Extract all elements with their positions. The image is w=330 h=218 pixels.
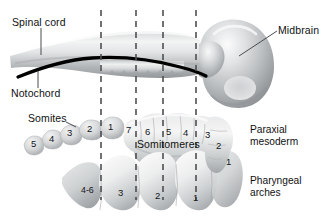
somitomere-number-1: 1 bbox=[226, 157, 231, 167]
pharyngeal-arch-number-3: 3 bbox=[118, 188, 123, 198]
somite-number-2: 2 bbox=[87, 124, 92, 134]
somitomere-number-2: 2 bbox=[216, 141, 221, 151]
somite-number-5: 5 bbox=[31, 139, 36, 149]
pharyngeal-arch-3 bbox=[99, 155, 141, 210]
embryo-diagram-figure: Spinal cord Notochord Midbrain Somites S… bbox=[0, 0, 330, 218]
pharyngeal-arch-2 bbox=[137, 152, 179, 210]
midbrain-group bbox=[199, 19, 274, 108]
pharyngeal-arches-label-line1: Pharyngeal bbox=[250, 175, 302, 187]
pharyngeal-arch-number-2: 2 bbox=[155, 191, 160, 201]
somitomere-number-5: 5 bbox=[166, 127, 171, 137]
somitomere-number-7: 7 bbox=[126, 125, 131, 135]
pharyngeal-arch-number-1: 1 bbox=[193, 193, 198, 203]
somite-number-4: 4 bbox=[49, 134, 54, 144]
somite-number-1: 1 bbox=[108, 122, 113, 132]
paraxial-mesoderm-label-line2: mesoderm bbox=[250, 136, 298, 148]
somitomere-number-3: 3 bbox=[205, 130, 210, 140]
neural-tube-group bbox=[10, 31, 210, 78]
somite-number-3: 3 bbox=[67, 128, 72, 138]
pharyngeal-arches-label-line2: arches bbox=[250, 187, 281, 199]
paraxial-mesoderm-label-line1: Paraxial bbox=[250, 124, 287, 136]
somitomere-number-6: 6 bbox=[145, 127, 150, 137]
somitomere-number-4: 4 bbox=[183, 128, 188, 138]
midbrain-inner-vesicle bbox=[224, 76, 256, 100]
pharyngeal-arch-number-4-6: 4-6 bbox=[81, 185, 94, 195]
